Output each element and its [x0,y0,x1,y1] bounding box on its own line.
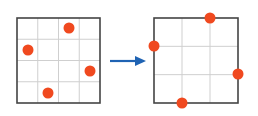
transform-arrow-icon [110,56,146,66]
grid-border [154,18,238,103]
right-grid [149,13,244,109]
point-dot [85,66,96,77]
point-dot [43,88,54,99]
point-dot [64,23,75,34]
point-dot [23,45,34,56]
point-dot [149,41,160,52]
point-dot [233,69,244,80]
left-grid [17,18,100,103]
point-dot [205,13,216,24]
diagram-canvas [0,0,258,116]
point-dot [177,98,188,109]
diagram [0,0,258,116]
